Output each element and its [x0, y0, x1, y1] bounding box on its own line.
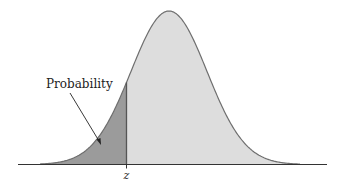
normal-distribution-diagram: Probability z — [0, 0, 353, 183]
probability-label: Probability — [46, 77, 113, 91]
annotation-arrow — [70, 93, 99, 141]
z-label: z — [123, 169, 130, 182]
